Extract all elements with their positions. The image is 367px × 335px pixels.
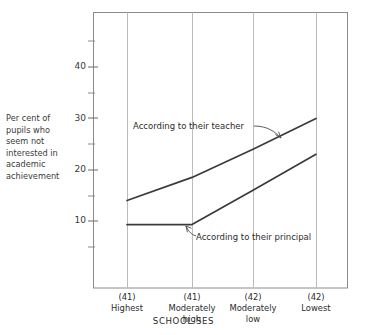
x-axis-title: SCHOOL SES [0,316,367,326]
annotation-teacher: According to their teacher [133,121,244,131]
x-tick-group-4: (42) Lowest [271,292,361,314]
leader-line-teacher [254,126,281,138]
plot-area [0,0,367,335]
plot-frame [94,13,348,289]
series-line-principal [127,154,316,224]
chart-figure: Per cent of pupils who seem not interest… [0,0,367,335]
annotation-principal: According to their principal [196,232,311,242]
x-tick-count-4: (42) [271,292,361,303]
x-tick-label-4-line1: Lowest [271,303,361,314]
